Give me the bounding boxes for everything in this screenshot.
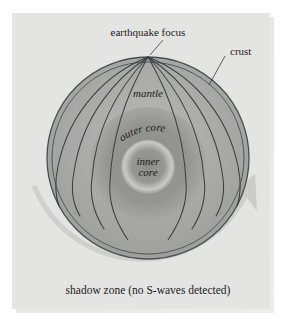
crust-label: crust (230, 45, 251, 57)
inner-core-label-line2: core (138, 166, 157, 178)
shadow-zone-caption: shadow zone (no S-waves detected) (66, 284, 231, 297)
earthquake-focus-label: earthquake focus (111, 26, 186, 38)
earth-shadow-zone-diagram: earthquake focus crust mantle outer core… (0, 0, 296, 331)
mantle-label: mantle (133, 87, 163, 99)
figure-root: earthquake focus crust mantle outer core… (0, 0, 296, 331)
